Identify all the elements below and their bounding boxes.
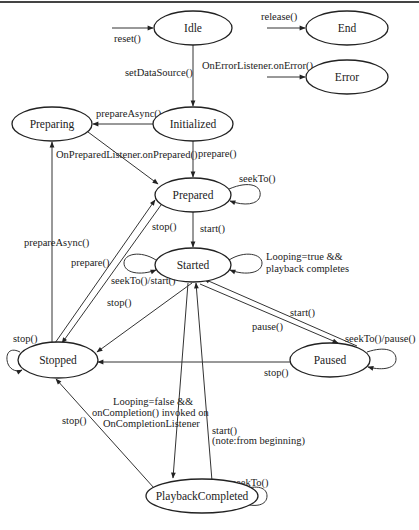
- state-idle: Idle: [154, 11, 232, 45]
- label-start-completed-2: (note:from beginning): [212, 435, 306, 447]
- state-playback-completed: PlaybackCompleted: [146, 479, 258, 513]
- label-on-prepared: OnPreparedListener.onPrepared(): [56, 149, 198, 161]
- label-looping-false-3: OnCompletionListener: [103, 418, 200, 429]
- edge-on-error: OnErrorListener.onError(): [202, 60, 314, 77]
- label-prepare-async-init: prepareAsync(): [96, 108, 162, 120]
- state-end: End: [306, 11, 388, 45]
- label-stop-paused: stop(): [264, 367, 289, 379]
- label-on-error: OnErrorListener.onError(): [202, 60, 314, 72]
- edge-prepare-async-init: prepareAsync(): [93, 108, 162, 124]
- state-end-label: End: [338, 22, 357, 34]
- edge-pause-started: pause(): [200, 284, 338, 343]
- edge-start-paused: start(): [204, 279, 357, 346]
- state-idle-label: Idle: [184, 22, 202, 34]
- state-initialized-label: Initialized: [170, 118, 217, 130]
- edge-prepare-stopped: prepare(): [55, 200, 155, 343]
- label-stop-stopped-self: stop(): [13, 333, 38, 345]
- edge-stop-started: stop(): [97, 283, 192, 352]
- label-start-prepared: start(): [200, 223, 226, 235]
- label-stop-started: stop(): [107, 297, 132, 309]
- state-stopped-label: Stopped: [39, 354, 77, 367]
- label-prepare-stopped: prepare(): [71, 257, 110, 269]
- label-looping-true-1: Looping=true &&: [266, 251, 343, 262]
- state-started: Started: [155, 248, 231, 282]
- label-seek-prepared: seekTo(): [239, 173, 276, 185]
- state-paused: Paused: [290, 343, 370, 377]
- edge-prepare-init: prepare(): [193, 141, 237, 177]
- state-prepared: Prepared: [155, 178, 231, 212]
- label-start-paused: start(): [290, 307, 316, 319]
- label-prepare-async-stopped: prepareAsync(): [24, 237, 90, 249]
- edge-looping-false: Looping=false && onCompletion() invoked …: [92, 283, 209, 478]
- state-started-label: Started: [177, 259, 210, 271]
- edge-reset: reset(): [112, 28, 153, 45]
- state-error: Error: [306, 60, 388, 94]
- edge-release: release(): [261, 11, 305, 28]
- state-preparing-label: Preparing: [30, 118, 75, 131]
- label-stop-prepared: stop(): [152, 221, 177, 233]
- label-set-data-source: setDataSource(): [125, 67, 193, 79]
- label-release: release(): [261, 11, 298, 23]
- state-preparing: Preparing: [12, 107, 92, 141]
- state-paused-label: Paused: [314, 354, 347, 366]
- label-prepare-init: prepare(): [198, 148, 237, 160]
- label-stop-completed: stop(): [62, 415, 87, 427]
- state-playback-completed-label: PlaybackCompleted: [156, 490, 249, 503]
- edge-seek-prepared: seekTo(): [229, 173, 276, 204]
- label-reset: reset(): [114, 33, 141, 45]
- edge-start-prepared: start(): [193, 212, 226, 247]
- edge-set-data-source: setDataSource(): [125, 45, 193, 106]
- edge-looping-true: Looping=true && playback completes: [229, 251, 349, 274]
- label-seek-pause-paused: seekTo()/pause(): [345, 333, 416, 345]
- state-diagram: reset() release() OnErrorListener.onErro…: [0, 0, 419, 530]
- edge-stop-paused: stop(): [98, 362, 290, 379]
- edge-prepare-async-stopped: prepareAsync(): [24, 142, 90, 342]
- state-initialized: Initialized: [153, 107, 233, 141]
- state-error-label: Error: [335, 71, 359, 83]
- state-prepared-label: Prepared: [173, 189, 214, 202]
- label-pause-started: pause(): [252, 321, 283, 333]
- label-looping-true-2: playback completes: [266, 263, 349, 274]
- state-stopped: Stopped: [18, 342, 98, 378]
- label-looping-false-1: Looping=false &&: [113, 396, 193, 407]
